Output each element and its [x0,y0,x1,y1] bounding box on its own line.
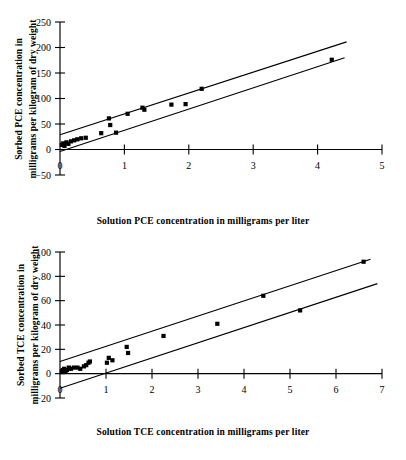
pce-y-axis-title-line1: Sorbed PCE concentration in [14,38,24,160]
tce-y-axis-title-line1: Sorbed TCE concentration in [16,263,26,386]
tce-data-point [261,294,265,298]
tce-x-tick-label: 7 [380,384,385,395]
tce-data-point [88,359,92,363]
tce-lower-bound-line [60,284,377,389]
tce-data-point [215,322,219,326]
tce-x-tick-label: 5 [288,384,293,395]
tce-plot-area: 01234567−20020406080100Sorbed TCE concen… [0,230,406,430]
tce-y-tick-label: 40 [41,320,51,331]
pce-data-point [79,136,83,140]
pce-y-axis-title-line2: milligrams per kilogram of dry weight [28,19,38,179]
pce-data-point [108,123,112,127]
pce-x-tick-label: 3 [251,160,256,171]
pce-data-point [114,131,118,135]
pce-data-point [183,102,187,106]
chart-pce: 012345−50050100150200250Sorbed PCE conce… [0,0,406,232]
tce-data-point [78,367,82,371]
pce-data-point [126,112,130,116]
tce-x-tick-label: 0 [58,384,63,395]
tce-data-point [107,356,111,360]
tce-data-point [105,361,109,365]
tce-y-tick-label: 80 [41,271,51,282]
pce-y-tick-label: 100 [36,93,51,104]
pce-data-point [99,131,103,135]
pce-data-point [84,136,88,140]
tce-y-tick-label: 20 [41,344,51,355]
tce-y-tick-label: 0 [46,368,51,379]
tce-x-tick-label: 3 [196,384,201,395]
tce-data-point [125,345,129,349]
pce-x-axis-title: Solution PCE concentration in milligrams… [0,216,406,226]
pce-data-point [142,108,146,112]
tce-upper-bound-line [60,259,371,361]
pce-x-tick-label: 4 [315,160,320,171]
pce-data-point [200,87,204,91]
pce-y-tick-label: 250 [36,17,51,28]
pce-x-tick-label: 2 [186,160,191,171]
pce-y-tick-label: 200 [36,42,51,53]
tce-y-axis-title-line2: milligrams per kilogram of dry weight [30,245,40,405]
pce-data-point [107,116,111,120]
tce-data-point [298,308,302,312]
pce-y-tick-label: 150 [36,68,51,79]
pce-data-point [330,58,334,62]
tce-x-tick-label: 6 [334,384,339,395]
pce-y-tick-label: 0 [46,144,51,155]
pce-data-point [75,137,79,141]
tce-data-point [110,358,114,362]
pce-plot-area: 012345−50050100150200250Sorbed PCE conce… [0,0,406,232]
pce-data-point [62,144,66,148]
tce-y-tick-label: 60 [41,295,51,306]
tce-x-axis-title: Solution TCE concentration in milligrams… [0,427,406,437]
tce-x-tick-label: 2 [150,384,155,395]
tce-data-point [362,260,366,264]
chart-tce: 01234567−20020406080100Sorbed TCE concen… [0,230,406,460]
tce-x-tick-label: 4 [242,384,247,395]
pce-x-tick-label: 1 [122,160,127,171]
pce-y-tick-label: 50 [41,119,51,130]
tce-data-point [126,351,130,355]
tce-data-point [72,365,76,369]
pce-x-tick-label: 0 [58,160,63,171]
tce-x-tick-label: 1 [104,384,109,395]
pce-x-tick-label: 5 [380,160,385,171]
tce-data-point [161,334,165,338]
pce-lower-bound-line [60,58,345,152]
pce-data-point [169,103,173,107]
